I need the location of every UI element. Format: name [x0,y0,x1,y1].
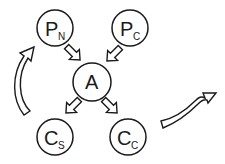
node-a-label: A [85,71,99,93]
node-pn-label: P [45,18,58,40]
node-cs-label: C [44,127,58,149]
node-cs: C S [37,119,73,155]
diagram-canvas: P N P C A C S C C [0,0,225,164]
arrow-pc-to-a [102,43,125,66]
node-a: A [73,63,111,101]
node-pc-label: P [120,18,133,40]
node-cc-label: C [117,127,131,149]
node-pc: P C [112,10,148,46]
node-pc-subscript: C [133,31,140,42]
node-cc: C C [110,119,146,155]
node-pn-subscript: N [58,31,65,42]
arrow-pn-to-a [62,42,85,65]
node-cs-subscript: S [58,140,65,151]
feedback-arrow-cs-to-pn [15,47,34,115]
outgoing-arrow-cc [161,93,216,128]
node-cc-subscript: C [131,140,138,151]
node-pn: P N [37,10,73,46]
